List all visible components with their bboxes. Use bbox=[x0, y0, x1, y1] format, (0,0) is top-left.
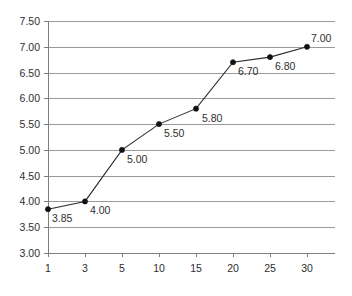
data-point-labels: 3.854.005.005.505.806.706.807.00 bbox=[52, 32, 332, 224]
chart-canvas: 7.507.006.506.005.505.004.504.003.503.00… bbox=[0, 0, 352, 296]
y-tick-label: 3.00 bbox=[20, 247, 41, 259]
y-tick-label: 7.50 bbox=[20, 15, 41, 27]
y-tick-label: 4.50 bbox=[20, 170, 41, 182]
y-tick-label: 3.50 bbox=[20, 221, 41, 233]
data-point-label: 6.70 bbox=[238, 65, 259, 77]
data-point-marker bbox=[45, 207, 50, 212]
line-chart: 7.507.006.506.005.505.004.504.003.503.00… bbox=[0, 0, 352, 296]
y-tick-label: 5.50 bbox=[20, 118, 41, 130]
x-tick-label: 25 bbox=[264, 262, 276, 274]
x-tick-label: 10 bbox=[153, 262, 165, 274]
data-point-marker bbox=[193, 106, 198, 111]
y-tick-label: 5.00 bbox=[20, 144, 41, 156]
x-tick-labels: 1351015202530 bbox=[45, 262, 313, 274]
y-tick-label: 6.00 bbox=[20, 92, 41, 104]
data-point-label: 7.00 bbox=[311, 32, 332, 44]
x-tick-label: 5 bbox=[119, 262, 125, 274]
data-point-marker bbox=[267, 54, 272, 59]
data-point-label: 4.00 bbox=[90, 204, 111, 216]
data-point-label: 5.00 bbox=[127, 153, 148, 165]
y-tick-label: 6.50 bbox=[20, 67, 41, 79]
data-point-marker bbox=[119, 147, 124, 152]
data-point-marker bbox=[230, 60, 235, 65]
x-axis bbox=[48, 253, 335, 257]
data-point-marker bbox=[156, 122, 161, 127]
y-tick-labels: 7.507.006.506.005.505.004.504.003.503.00 bbox=[20, 15, 41, 259]
data-point-label: 5.50 bbox=[164, 127, 185, 139]
data-point-label: 6.80 bbox=[275, 60, 296, 72]
x-tick-label: 1 bbox=[45, 262, 51, 274]
y-axis bbox=[44, 21, 49, 254]
x-tick-label: 20 bbox=[227, 262, 239, 274]
data-point-label: 3.85 bbox=[52, 212, 73, 224]
y-tick-label: 4.00 bbox=[20, 195, 41, 207]
x-tick-label: 15 bbox=[190, 262, 202, 274]
x-tick-label: 30 bbox=[301, 262, 313, 274]
data-point-label: 5.80 bbox=[202, 112, 223, 124]
data-point-marker bbox=[304, 44, 309, 49]
y-tick-label: 7.00 bbox=[20, 41, 41, 53]
data-point-marker bbox=[82, 199, 87, 204]
gridlines bbox=[48, 22, 335, 254]
x-tick-label: 3 bbox=[82, 262, 88, 274]
